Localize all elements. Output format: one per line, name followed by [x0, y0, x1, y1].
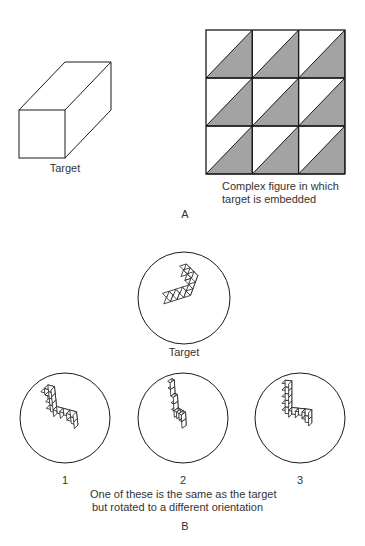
complex-grid	[206, 30, 345, 174]
panel-label-a: A	[170, 208, 200, 221]
option-2-polycube	[168, 379, 187, 429]
target-polycube	[162, 264, 197, 304]
panel-label-b: B	[170, 520, 200, 533]
option-circle-1	[20, 373, 110, 463]
target-box	[19, 62, 111, 158]
target-label-b: Target	[154, 346, 214, 359]
target-circle	[138, 252, 230, 344]
caption-b-line2: but rotated to a different orientation	[92, 501, 263, 514]
option-circle-2	[138, 373, 228, 463]
figure-canvas	[0, 0, 365, 546]
option-3-polycube	[282, 380, 312, 426]
option-label-2: 2	[168, 474, 198, 487]
option-label-3: 3	[285, 474, 315, 487]
caption-b-line1: One of these is the same as the target	[90, 488, 277, 501]
option-1-polycube	[41, 385, 78, 429]
complex-caption-line2: target is embedded	[222, 193, 316, 206]
target-label-a: Target	[19, 162, 111, 175]
complex-caption-line1: Complex figure in which	[222, 180, 339, 193]
option-label-1: 1	[50, 474, 80, 487]
option-circle-3	[255, 373, 345, 463]
